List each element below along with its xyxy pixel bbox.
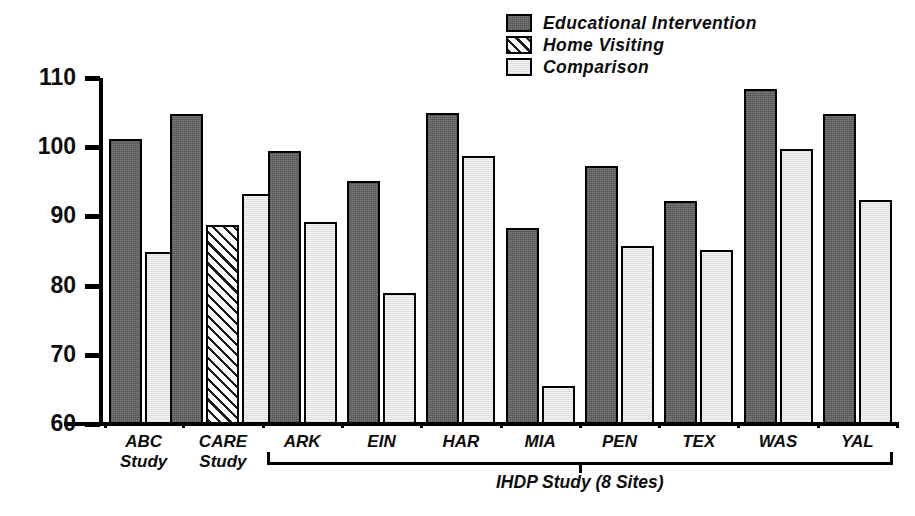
- group-label-was: WAS: [738, 432, 817, 452]
- x-tick-mark-9: [896, 422, 899, 428]
- bar-har-educational-intervention: [426, 113, 459, 424]
- y-tick-label-70: 70: [30, 343, 76, 366]
- group-label-ein: EIN: [342, 432, 421, 452]
- y-tick-mark-80: [85, 284, 100, 289]
- group-label-yal: YAL: [818, 432, 897, 452]
- bar-ark-educational-intervention: [268, 151, 301, 424]
- y-tick-label-100: 100: [30, 135, 76, 158]
- bar-chart-figure: Educational Intervention Home Visiting C…: [0, 0, 915, 516]
- x-tick-mark-start: [104, 422, 107, 428]
- group-label-ark: ARK: [263, 432, 342, 452]
- group-label-abc-study: ABC Study: [104, 432, 183, 472]
- plot-area: 11010090807060 ABC StudyCARE StudyARKEIN…: [0, 0, 915, 516]
- bar-tex-educational-intervention: [664, 201, 697, 424]
- x-tick-mark-6: [658, 422, 661, 428]
- ihdp-bracket-label: IHDP Study (8 Sites): [267, 472, 893, 493]
- bar-yal-comparison: [859, 200, 892, 424]
- y-tick-label-80: 80: [30, 274, 76, 297]
- y-tick-label-60: 60: [30, 412, 76, 435]
- x-tick-mark-4: [500, 422, 503, 428]
- y-axis-line: [99, 78, 103, 426]
- y-tick-label-90: 90: [30, 204, 76, 227]
- y-tick-label-110: 110: [30, 66, 76, 89]
- x-tick-mark-8: [817, 422, 820, 428]
- ihdp-bracket: [267, 452, 893, 465]
- x-tick-mark-5: [579, 422, 582, 428]
- bar-pen-educational-intervention: [585, 166, 618, 424]
- group-label-tex: TEX: [659, 432, 738, 452]
- bar-ark-comparison: [304, 222, 337, 424]
- group-label-har: HAR: [421, 432, 500, 452]
- bar-pen-comparison: [621, 246, 654, 424]
- x-tick-mark-2: [341, 422, 344, 428]
- group-label-care-study: CARE Study: [183, 432, 262, 472]
- y-tick-mark-70: [85, 353, 100, 358]
- bar-care-study-educational-intervention: [170, 114, 203, 424]
- x-tick-mark-7: [737, 422, 740, 428]
- x-tick-mark-1: [262, 422, 265, 428]
- bar-tex-comparison: [700, 250, 733, 424]
- bar-ein-comparison: [383, 293, 416, 424]
- bar-mia-educational-intervention: [506, 228, 539, 424]
- bar-yal-educational-intervention: [823, 114, 856, 424]
- y-tick-mark-90: [85, 214, 100, 219]
- group-label-pen: PEN: [580, 432, 659, 452]
- y-tick-mark-100: [85, 145, 100, 150]
- y-tick-mark-110: [85, 76, 100, 81]
- bar-abc-study-educational-intervention: [109, 139, 142, 424]
- bar-ein-educational-intervention: [347, 181, 380, 424]
- y-tick-mark-60: [85, 422, 100, 427]
- bar-har-comparison: [462, 156, 495, 424]
- bar-was-educational-intervention: [744, 89, 777, 424]
- group-label-mia: MIA: [501, 432, 580, 452]
- x-tick-mark-3: [420, 422, 423, 428]
- bar-mia-comparison: [542, 386, 575, 424]
- bar-care-study-home-visiting: [206, 225, 239, 424]
- bar-was-comparison: [780, 149, 813, 424]
